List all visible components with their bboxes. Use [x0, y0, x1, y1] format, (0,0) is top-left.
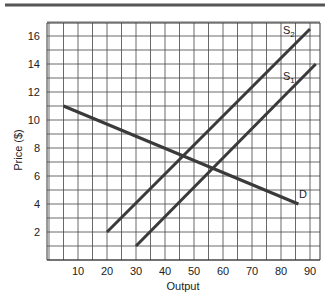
y-tick: 2: [34, 226, 40, 238]
s1-label: S1: [283, 70, 295, 85]
curve-s1: [136, 64, 316, 246]
x-tick: 80: [275, 265, 287, 277]
y-tick: 8: [34, 142, 40, 154]
d-label: D: [299, 188, 307, 200]
y-tick: 10: [28, 114, 40, 126]
x-tick: 10: [72, 265, 84, 277]
x-tick: 20: [101, 265, 113, 277]
x-axis-label: Output: [166, 280, 199, 292]
y-tick: 4: [34, 198, 40, 210]
x-tick: 40: [159, 265, 171, 277]
y-tick-labels: 246810121416: [28, 30, 40, 238]
y-tick: 12: [28, 86, 40, 98]
x-tick-labels: 102030405060708090: [72, 265, 316, 277]
y-tick: 16: [28, 30, 40, 42]
y-tick: 6: [34, 170, 40, 182]
y-tick: 14: [28, 58, 40, 70]
grid: [47, 22, 320, 260]
x-tick: 30: [130, 265, 142, 277]
x-tick: 70: [246, 265, 258, 277]
curve-d: [64, 106, 299, 204]
curves: [64, 29, 316, 246]
x-tick: 90: [304, 265, 316, 277]
s2-label: S2: [283, 24, 295, 39]
x-tick: 60: [217, 265, 229, 277]
y-axis-label: Price ($): [12, 129, 24, 171]
supply-demand-chart: 246810121416 102030405060708090 Output P…: [0, 0, 328, 299]
x-tick: 50: [188, 265, 200, 277]
